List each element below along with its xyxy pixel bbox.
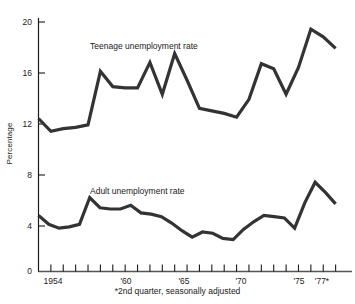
chart-footnote: *2nd quarter, seasonally adjusted xyxy=(0,286,355,296)
series-label-teenage-unemployment-rate: Teenage unemployment rate xyxy=(90,41,198,51)
x-tick-label-1965: '65 xyxy=(164,276,204,286)
y-tick-label-16: 16 xyxy=(10,68,32,78)
x-tick-label-1977: '77* xyxy=(302,276,342,286)
series-line-adult-unemployment-rate xyxy=(39,182,336,239)
chart-figure: Percentage 20 16 12 8 4 0 1954 '60 '65 '… xyxy=(0,0,355,304)
y-tick-label-8: 8 xyxy=(10,170,32,180)
x-tick-label-1970: '70 xyxy=(221,276,261,286)
y-tick-label-12: 12 xyxy=(10,119,32,129)
x-tick-label-1960: '60 xyxy=(106,276,146,286)
x-axis-ticks xyxy=(51,265,336,272)
x-tick-label-1954: 1954 xyxy=(33,276,73,286)
y-tick-label-4: 4 xyxy=(10,221,32,231)
y-tick-label-0: 0 xyxy=(10,266,32,276)
series-label-adult-unemployment-rate: Adult unemployment rate xyxy=(90,186,185,196)
y-tick-label-20: 20 xyxy=(10,17,32,27)
